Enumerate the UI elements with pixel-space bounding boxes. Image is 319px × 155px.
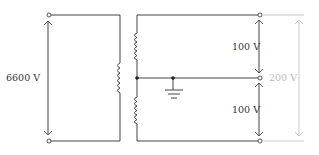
primary-winding-circuit: [51, 15, 120, 141]
secondary-terminal-top: [258, 13, 262, 17]
primary-terminal-top: [47, 13, 51, 17]
primary-coil-icon: [118, 63, 121, 93]
secondary-winding-circuit: [135, 15, 259, 141]
center-tap-node: [135, 76, 139, 80]
lower-voltage-label: 100 V: [232, 104, 260, 115]
secondary-lower-coil-icon: [135, 97, 138, 124]
secondary-terminal-bottom: [258, 139, 262, 143]
primary-voltage-label: 6600 V: [6, 72, 40, 83]
ground-node: [171, 76, 175, 80]
secondary-terminal-neutral: [258, 76, 262, 80]
secondary-upper-coil-icon: [135, 33, 138, 60]
primary-terminal-bottom: [47, 139, 51, 143]
upper-voltage-label: 100 V: [232, 41, 260, 52]
total-voltage-label: 200 V: [269, 72, 297, 83]
transformer-diagram: 6600 V 100 V 100 V 200 V: [0, 0, 319, 155]
